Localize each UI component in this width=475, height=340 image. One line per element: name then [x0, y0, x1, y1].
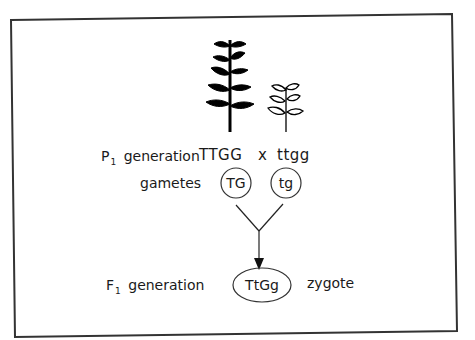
f1-label-rest: generation	[124, 277, 205, 293]
gamete-2-text: tg	[271, 175, 301, 191]
p1-generation-label: P1 generation	[101, 148, 200, 166]
p1-letter: P	[101, 148, 109, 164]
cross-symbol: x	[258, 147, 267, 163]
zygote-label: zygote	[307, 275, 354, 291]
f1-generation-label: F1 generation	[106, 277, 204, 295]
gamete-1-text: TG	[221, 175, 251, 191]
f1-genotype: TtGg	[237, 277, 287, 293]
parent2-genotype: ttgg	[277, 147, 310, 163]
f1-letter: F	[106, 277, 114, 293]
p1-subscript: 1	[110, 157, 116, 167]
f1-subscript: 1	[115, 286, 121, 296]
p1-label-rest: generation	[119, 148, 200, 164]
parent1-genotype: TTGG	[199, 147, 242, 163]
gametes-label: gametes	[140, 175, 201, 191]
